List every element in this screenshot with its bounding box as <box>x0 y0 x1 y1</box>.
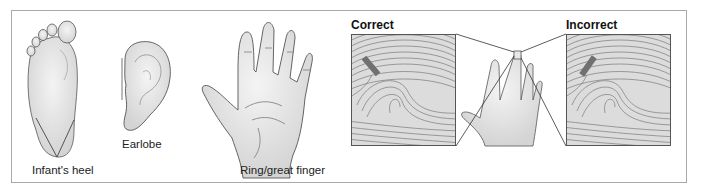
ear-icon <box>122 42 170 131</box>
fingerprint-whorls-icon <box>352 35 456 146</box>
label-incorrect: Incorrect <box>566 18 617 32</box>
hand-with-highlighted-fingertip-icon <box>462 51 543 146</box>
lancet-mark-perpendicular <box>362 56 381 77</box>
caption-earlobe: Earlobe <box>122 138 162 150</box>
caption-ring-great-finger: Ring/great finger <box>240 164 325 176</box>
caption-infants-heel: Infant's heel <box>32 164 94 176</box>
fingerprint-panel-correct <box>351 34 456 146</box>
foot-sole-icon <box>27 21 77 157</box>
fingerprint-whorls-icon <box>567 35 671 146</box>
hand-palm-icon <box>202 23 312 179</box>
label-correct: Correct <box>351 18 394 32</box>
fingerprint-panel-incorrect <box>566 34 671 146</box>
